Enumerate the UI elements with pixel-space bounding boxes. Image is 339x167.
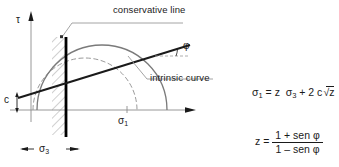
- conservative-line-label: conservative line: [113, 4, 185, 15]
- eq2-denominator: 1 – sen φ: [272, 143, 322, 156]
- sigma1-subscript: 1: [124, 120, 128, 127]
- tau-axis-label: τ: [16, 14, 20, 25]
- equation-z: z = 1 + sen φ 1 – sen φ: [255, 129, 323, 156]
- eq1-z: z: [275, 86, 280, 98]
- conservative-line-leader: [60, 23, 183, 38]
- eq2-numerator: 1 + sen φ: [272, 129, 322, 143]
- equation-sigma1: σ1 = z σ3 + 2 c√z: [252, 86, 334, 98]
- figure-root: conservative line intrinsic curve τ φ c …: [0, 0, 339, 167]
- eq1-equals: =: [266, 86, 272, 98]
- sigma3-dimension: [20, 147, 80, 151]
- eq2-fraction: 1 + sen φ 1 – sen φ: [272, 129, 322, 156]
- sigma3-subscript: 3: [45, 148, 49, 155]
- eq1-sigma3-sub: 3: [292, 91, 296, 100]
- eq1-sqrt: √z: [322, 86, 334, 98]
- sigma-axis: [10, 107, 196, 112]
- intrinsic-curve-label: intrinsic curve: [150, 72, 210, 83]
- sigma3-dimension-label: σ3: [39, 143, 49, 154]
- eq2-equals: =: [263, 135, 269, 147]
- cohesion-label: c: [4, 94, 9, 105]
- sqrt-bar-icon: [326, 86, 335, 87]
- sigma1-axis-label: σ1: [118, 115, 128, 126]
- eq1-plus-2c: + 2 c: [299, 86, 322, 98]
- eq2-z: z: [255, 135, 260, 147]
- eq1-sigma1-sub: 1: [258, 91, 262, 100]
- phi-angle-label: φ: [183, 40, 189, 51]
- eq1-radicand: z: [329, 86, 334, 98]
